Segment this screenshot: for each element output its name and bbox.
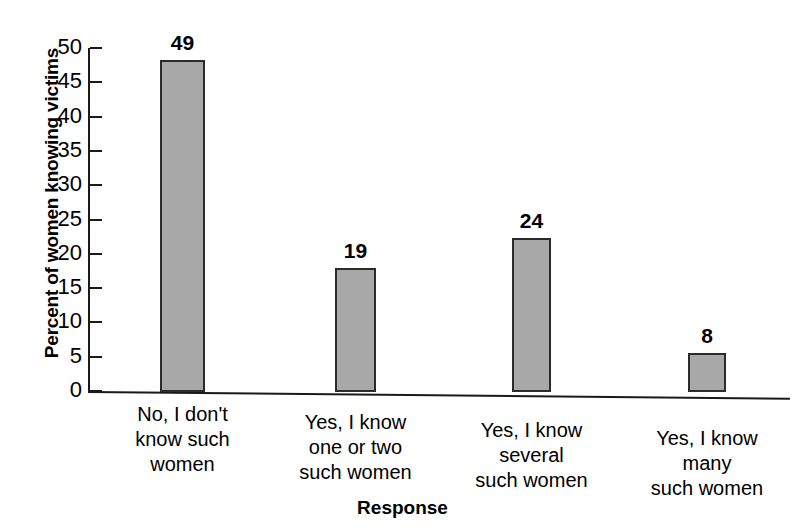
y-tick-5: 5 [90, 356, 102, 358]
y-tick-label-25: 25 [58, 208, 82, 230]
y-tick-label-45: 45 [58, 70, 82, 92]
y-tick-label-35: 35 [58, 139, 82, 161]
bar [160, 60, 205, 392]
bar-value-label: 24 [482, 210, 581, 231]
y-tick-40: 40 [90, 116, 102, 118]
x-axis-title: Response [0, 497, 805, 519]
plot-area: 05101520253035404550 4919248 [88, 48, 790, 392]
y-axis-title: Percent of women knowing victims [41, 3, 63, 403]
bar [512, 238, 551, 392]
bar-value-label: 49 [130, 32, 235, 53]
y-tick-label-10: 10 [58, 310, 82, 332]
chart-figure: Percent of women knowing victims 0510152… [0, 0, 805, 531]
y-tick-label-5: 5 [70, 345, 82, 367]
bar-value-label: 8 [658, 325, 756, 346]
y-tick-30: 30 [90, 184, 102, 186]
x-axis-category-label: Yes, I know one or two such women [261, 410, 451, 485]
y-tick-45: 45 [90, 81, 102, 83]
y-tick-50: 50 [90, 47, 102, 49]
bar [335, 268, 376, 392]
y-axis-line [88, 48, 90, 393]
x-axis-line [88, 391, 790, 400]
y-tick-label-30: 30 [58, 173, 82, 195]
x-axis-category-label: No, I don't know such women [88, 402, 278, 477]
bar [688, 353, 726, 392]
y-tick-label-0: 0 [70, 379, 82, 401]
y-tick-35: 35 [90, 150, 102, 152]
y-tick-15: 15 [90, 287, 102, 289]
y-tick-20: 20 [90, 253, 102, 255]
x-axis-category-label: Yes, I know many such women [612, 426, 802, 501]
y-tick-label-50: 50 [58, 36, 82, 58]
x-axis-category-label: Yes, I know several such women [437, 418, 627, 493]
y-tick-25: 25 [90, 219, 102, 221]
y-tick-label-15: 15 [58, 276, 82, 298]
y-tick-10: 10 [90, 321, 102, 323]
y-tick-0: 0 [90, 390, 102, 392]
y-tick-label-40: 40 [58, 105, 82, 127]
bar-value-label: 19 [305, 240, 406, 261]
y-tick-label-20: 20 [58, 242, 82, 264]
